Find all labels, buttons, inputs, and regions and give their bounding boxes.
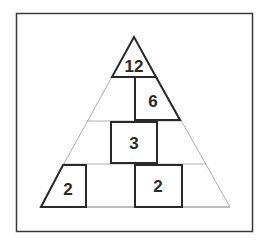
apex-value: 12 xyxy=(125,57,144,76)
row4-left-value: 2 xyxy=(63,180,72,199)
row2-right-value: 6 xyxy=(148,92,157,111)
row4-third-value: 2 xyxy=(153,177,162,196)
pyramid-diagram: 12 6 3 2 2 xyxy=(0,0,267,242)
row3-center-value: 3 xyxy=(129,134,138,153)
